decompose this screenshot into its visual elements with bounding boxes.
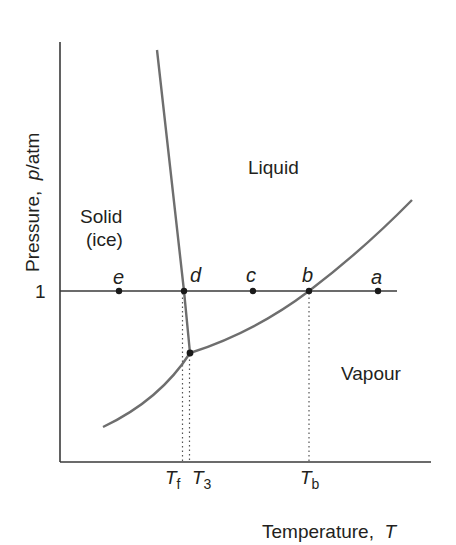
- point-e: [116, 288, 122, 294]
- x-tick-t3-sub: 3: [204, 476, 212, 492]
- triple-point: [187, 350, 194, 357]
- x-tick-tf-sub: f: [177, 476, 181, 492]
- x-axis-title-var: T: [385, 521, 397, 542]
- region-vapour-label: Vapour: [341, 364, 401, 383]
- point-label-c: c: [246, 265, 256, 285]
- point-label-d: d: [190, 265, 201, 285]
- point-b: [306, 288, 312, 294]
- x-tick-tb: Tb: [300, 468, 319, 487]
- x-axis-title-text: Temperature,: [262, 521, 374, 542]
- y-axis-title-text: Pressure,: [22, 191, 43, 272]
- sublimation-curve: [103, 353, 190, 427]
- x-tick-tf-main: T: [165, 467, 177, 488]
- phase-diagram: [0, 0, 456, 545]
- point-d: [181, 288, 187, 294]
- point-label-a: a: [371, 267, 382, 287]
- point-label-e: e: [113, 267, 124, 287]
- melting-curve: [157, 50, 190, 353]
- x-tick-tf: Tf: [165, 468, 181, 487]
- y-tick-1: 1: [35, 282, 46, 301]
- y-axis-title-unit: /atm: [22, 133, 43, 170]
- point-a: [375, 288, 381, 294]
- x-tick-tb-sub: b: [312, 476, 320, 492]
- x-tick-t3: T3: [192, 468, 211, 487]
- x-axis-title: Temperature, T: [262, 522, 396, 541]
- x-tick-t3-main: T: [192, 467, 204, 488]
- y-axis-title-var: p: [22, 170, 43, 181]
- region-liquid-label: Liquid: [248, 158, 299, 177]
- region-solid-sublabel: (ice): [86, 230, 123, 249]
- region-solid-label: Solid: [80, 207, 122, 226]
- y-axis-title: Pressure, p/atm: [22, 133, 44, 272]
- point-label-b: b: [302, 265, 313, 285]
- point-c: [250, 288, 256, 294]
- x-tick-tb-main: T: [300, 467, 312, 488]
